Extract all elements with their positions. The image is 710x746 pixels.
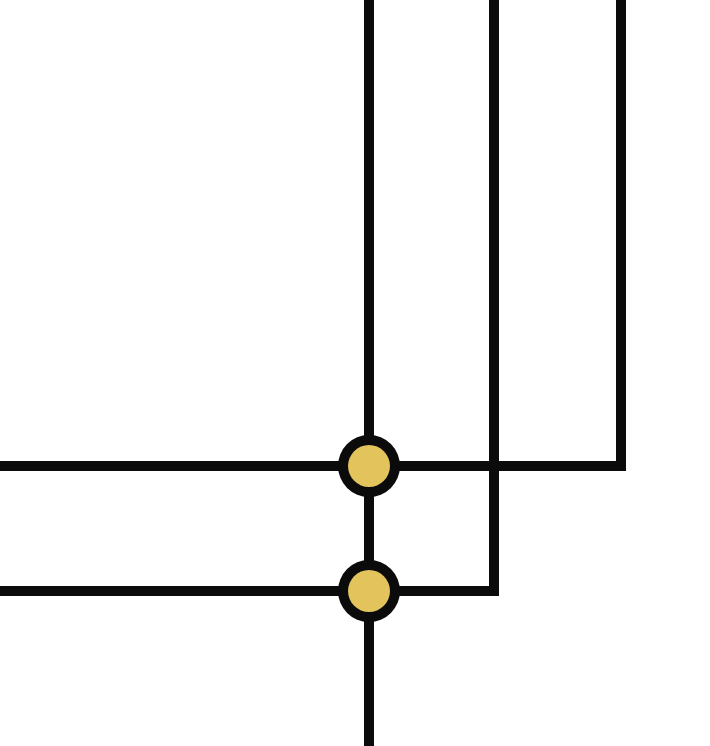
junction-bottom-node [348, 570, 390, 612]
circuit-diagram [0, 0, 710, 746]
background [0, 0, 710, 746]
junction-top-node [348, 445, 390, 487]
